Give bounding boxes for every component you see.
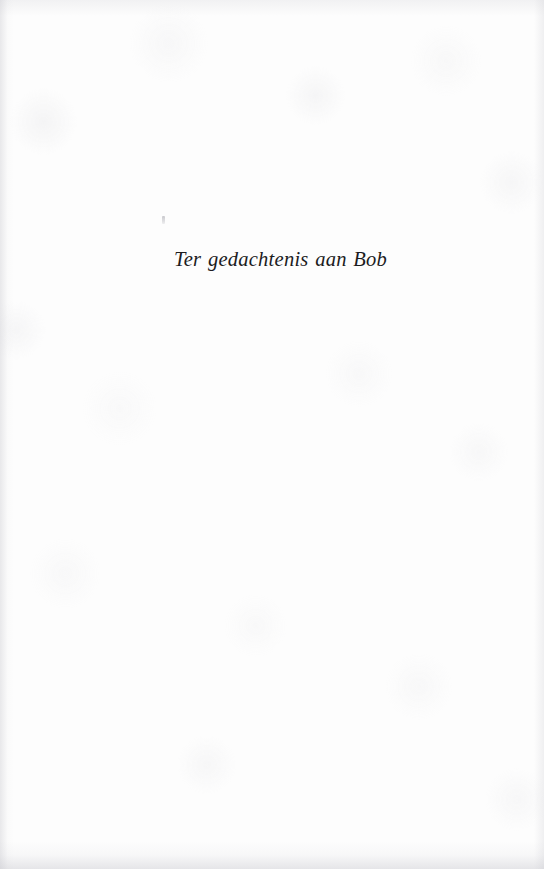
scan-edge-shadow-bottom — [0, 841, 544, 869]
scan-edge-shadow-top — [0, 0, 544, 16]
scan-edge-shadow-left — [0, 0, 14, 869]
dedication-text: Ter gedachtenis aan Bob — [174, 248, 387, 271]
scan-edge-shadow-right — [534, 0, 544, 869]
scanned-page: Ter gedachtenis aan Bob — [0, 0, 544, 869]
paper-texture-noise — [0, 0, 544, 869]
scan-speck-artifact — [162, 216, 165, 224]
